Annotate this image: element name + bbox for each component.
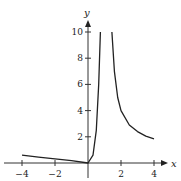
curve-left-branch [22, 32, 100, 163]
y-tick-label: 10 [72, 27, 84, 37]
y-tick-label: 6 [77, 79, 83, 89]
plot-area: xy−4−224246810 [0, 0, 181, 181]
y-axis-label: y [83, 7, 90, 18]
axes: xy−4−224246810 [4, 7, 177, 179]
curve-right-branch [112, 32, 154, 139]
x-tick-label: 4 [151, 169, 157, 179]
x-tick-label: 2 [118, 169, 124, 179]
y-axis-arrow-icon [85, 20, 91, 27]
x-tick-label: −4 [15, 169, 29, 179]
y-tick-label: 4 [77, 106, 83, 116]
x-tick-label: −2 [48, 169, 61, 179]
x-axis-label: x [171, 158, 177, 169]
y-tick-label: 2 [77, 132, 83, 142]
chart: xy−4−224246810 [0, 0, 181, 181]
x-axis-arrow-icon [161, 160, 168, 166]
y-tick-label: 8 [77, 53, 83, 63]
